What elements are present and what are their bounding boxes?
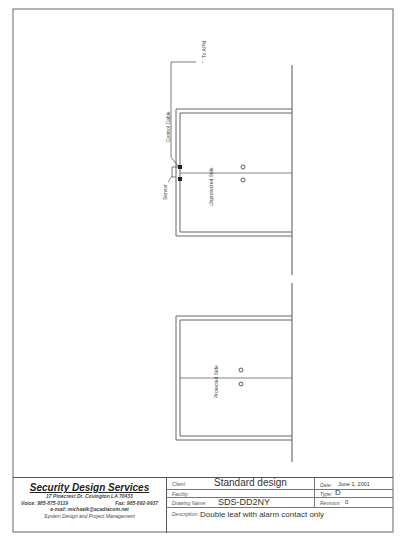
upper-door-frame — [176, 109, 292, 236]
revision-label: Revision: — [320, 500, 341, 506]
revision-value: 0 — [345, 499, 348, 505]
facility-label: Facility: — [172, 491, 189, 497]
drawing-sheet: To APM Control Cable Sensor Unprotected … — [0, 0, 406, 540]
lower-door-frame — [176, 316, 292, 440]
control-cable-line — [171, 62, 196, 166]
date-value: June 1, 2001 — [338, 481, 370, 487]
page-frame — [13, 9, 393, 532]
title-block: Security Design Services 17 Pinecrest Dr… — [13, 477, 393, 533]
description-value: Double leaf with alarm contact only — [200, 510, 324, 519]
drawing-name-field: Drawing Name: SDS-DD2NY — [166, 498, 314, 508]
type-value: D — [335, 488, 341, 497]
to-apm-label: To APM — [201, 41, 207, 58]
revision-field: Revision: 0 — [314, 498, 393, 508]
date-label: Date: — [320, 482, 332, 488]
sensor-label: Sensor — [162, 184, 168, 200]
type-field: Type: D — [314, 490, 393, 498]
unprotected-side-label: Unprotected Side — [208, 167, 214, 206]
protected-side-label: Protected Side — [213, 365, 219, 398]
floor-plan-drawing — [0, 0, 406, 540]
type-label: Type: — [320, 491, 332, 497]
control-cable-label: Control Cable — [165, 111, 171, 142]
date-field: Date: June 1, 2001 — [314, 478, 393, 490]
drawing-name-label: Drawing Name: — [172, 500, 206, 506]
client-value: Standard design — [214, 477, 287, 488]
client-label: Client: — [172, 481, 186, 487]
description-label: Description: — [172, 511, 198, 517]
company-info: Security Design Services 17 Pinecrest Dr… — [13, 478, 167, 533]
client-field: Client: Standard design — [166, 478, 314, 490]
company-name: Security Design Services — [13, 482, 166, 493]
company-tagline: System Design and Project Management — [13, 513, 166, 520]
description-field: Description: Double leaf with alarm cont… — [166, 508, 393, 533]
drawing-name-value: SDS-DD2NY — [218, 497, 270, 507]
